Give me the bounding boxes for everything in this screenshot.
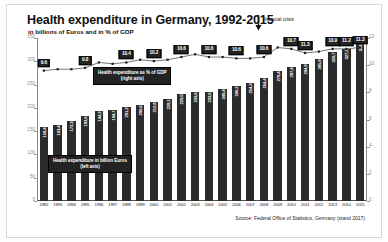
gdp-point-label: 11.3: [298, 41, 313, 50]
chart-sheet: Health expenditure in Germany, 1992-2015…: [6, 4, 382, 238]
gdp-line-marker: [125, 61, 127, 63]
x-axis-label: 2009: [273, 202, 282, 207]
x-axis-label: 1992: [39, 202, 48, 207]
x-axis-label: 2001: [163, 202, 172, 207]
x-axis-label: 2003: [191, 202, 200, 207]
gdp-line-marker: [277, 46, 279, 48]
gdp-point-label: 10.7: [284, 37, 299, 46]
y-axis-right-tick-mark: [367, 65, 370, 66]
gdp-line-marker: [167, 59, 169, 61]
x-axis-label: 1996: [94, 202, 103, 207]
gdp-line-marker: [43, 70, 45, 72]
gdp-line-marker: [222, 56, 224, 58]
gdp-line-marker: [98, 61, 100, 63]
y-axis-right-tick-mark: [367, 174, 370, 175]
gdp-point-label: 11.2: [339, 37, 354, 46]
gdp-point-label: 10.4: [119, 51, 134, 60]
gdp-line-marker: [112, 63, 114, 65]
x-axis-label: 2002: [177, 202, 186, 207]
y-axis-right-tick-mark: [367, 92, 370, 93]
x-axis-label: 2006: [232, 202, 241, 207]
gdp-line-marker: [359, 46, 361, 48]
gdp-line-marker: [208, 56, 210, 58]
gdp-point-label: 11.3: [353, 36, 368, 45]
gdp-line-marker: [304, 52, 306, 54]
source-note: Source: Federal Office of Statistics, Ge…: [235, 215, 365, 221]
gdp-line-marker: [180, 56, 182, 58]
x-axis-label: 2004: [204, 202, 213, 207]
y-axis-right-tick-mark: [367, 120, 370, 121]
gdp-line-marker: [235, 57, 237, 59]
x-axis-label: 2015: [356, 202, 365, 207]
x-axis-label: 2012: [314, 202, 323, 207]
legend-gdp-line: Health expenditure as % of GDP (right ax…: [93, 67, 171, 85]
gdp-point-label: 10.2: [146, 49, 161, 58]
page-subtitle: in billions of Euros and in % of GDP: [28, 28, 134, 35]
x-axis-labels: 1992199319941995199619971998199920002001…: [37, 202, 367, 216]
gdp-line-marker: [290, 48, 292, 50]
x-axis-label: 1999: [136, 202, 145, 207]
gdp-line-marker: [332, 48, 334, 50]
legend-bars-line-2: (left axis): [53, 164, 127, 170]
gdp-point-label: 10.6: [201, 45, 216, 54]
x-axis-label: 2014: [342, 202, 351, 207]
gdp-line-marker: [57, 68, 59, 70]
x-axis-label: 1995: [81, 202, 90, 207]
x-axis-label: 2005: [218, 202, 227, 207]
x-axis-label: 1993: [53, 202, 62, 207]
gdp-point-label: 9.8: [79, 56, 91, 65]
gdp-line-marker: [194, 53, 196, 55]
gdp-point-label: 9.6: [38, 59, 50, 68]
gdp-point-label: 10.6: [174, 45, 189, 54]
gdp-line-marker: [70, 68, 72, 70]
gdp-line-marker: [345, 48, 347, 50]
x-axis-label: 1994: [67, 202, 76, 207]
gdp-point-label: 10.6: [256, 45, 271, 54]
legend-bars: Health expenditure in billion Euros (lef…: [48, 155, 132, 173]
x-axis-label: 2013: [328, 202, 337, 207]
gdp-line-marker: [263, 56, 265, 58]
x-axis-label: 2011: [301, 202, 310, 207]
gdp-point-label: 10.6: [229, 47, 244, 56]
gdp-line-marker: [153, 60, 155, 62]
gdp-line-marker: [84, 67, 86, 69]
gdp-line-marker: [249, 57, 251, 59]
x-axis-label: 2010: [287, 202, 296, 207]
financial-crisis-annotation: financial crisis: [263, 16, 294, 22]
gdp-point-label: 10.9: [325, 37, 340, 46]
x-axis-label: 1997: [108, 202, 117, 207]
x-axis-label: 1998: [122, 202, 131, 207]
gdp-line-marker: [139, 59, 141, 61]
down-arrow-icon: [255, 15, 262, 31]
chart-plot-area: 050100150200250300350 024681012 158,4163…: [37, 38, 367, 201]
legend-gdp-line-2: (right axis): [98, 76, 166, 82]
y-axis-right-tick-mark: [367, 147, 370, 148]
screenshot-page: Health expenditure in Germany, 1992-2015…: [0, 0, 388, 242]
x-axis-label: 2007: [246, 202, 255, 207]
gdp-line-marker: [318, 50, 320, 52]
x-axis-label: 2008: [259, 202, 268, 207]
x-axis-label: 2000: [149, 202, 158, 207]
y-axis-right-tick-mark: [367, 201, 370, 202]
page-title: Health expenditure in Germany, 1992-2015: [27, 13, 274, 27]
